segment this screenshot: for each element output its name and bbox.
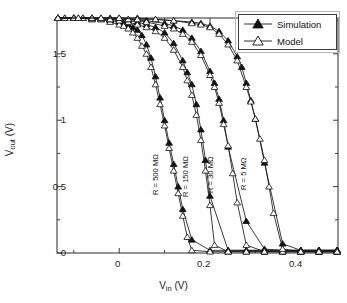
y-axis-title-wrap: Vout (V) — [2, 98, 18, 188]
legend-marker-model — [243, 34, 273, 48]
x-tick-label-0: 0 — [115, 259, 120, 269]
annotation-r5: R = 5 MΩ — [240, 158, 248, 190]
legend: Simulation Model — [238, 14, 337, 50]
x-tick-label-0.2: 0.2 — [197, 259, 210, 269]
y-axis-title-main: V — [4, 150, 15, 157]
y-axis-title-unit: (V) — [4, 123, 15, 139]
y-tick-label-1.5: 1.5 — [53, 49, 66, 59]
annotation-r30: R = 30 MΩ — [207, 156, 215, 193]
y-tick-label-0.5: 0.5 — [53, 182, 66, 192]
open-triangle-icon — [243, 34, 273, 48]
x-tick-label-0.4: 0.4 — [289, 259, 302, 269]
legend-marker-simulation — [243, 17, 273, 31]
x-axis-title: Vin (V) — [0, 281, 347, 292]
legend-label-model: Model — [277, 36, 303, 47]
y-tick-label-1: 1 — [61, 115, 66, 125]
y-axis-title: Vout (V) — [5, 103, 16, 177]
legend-item-model: Model — [243, 33, 303, 49]
annotation-r500: R = 500 MΩ — [152, 154, 160, 195]
legend-label-simulation: Simulation — [277, 19, 321, 30]
y-tick-label-0: 0 — [61, 248, 66, 258]
x-axis-title-main: V — [159, 280, 166, 291]
chart-figure: 1.5 1 0.5 0 0 0.2 0.4 Vout (V) Vin (V) R… — [0, 0, 347, 303]
filled-triangle-icon — [243, 17, 273, 31]
x-axis-title-unit: (V) — [172, 280, 188, 291]
legend-item-simulation: Simulation — [243, 16, 321, 32]
y-axis-title-sub: out — [8, 139, 17, 149]
annotation-r150: R = 150 MΩ — [182, 156, 190, 197]
